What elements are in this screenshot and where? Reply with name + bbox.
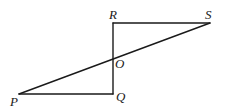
label-o: O	[115, 56, 125, 71]
label-q: Q	[116, 89, 126, 104]
label-p: P	[9, 94, 18, 109]
label-s: S	[205, 7, 212, 22]
label-r: R	[108, 7, 117, 22]
geometry-diagram: R S O P Q	[0, 0, 228, 112]
